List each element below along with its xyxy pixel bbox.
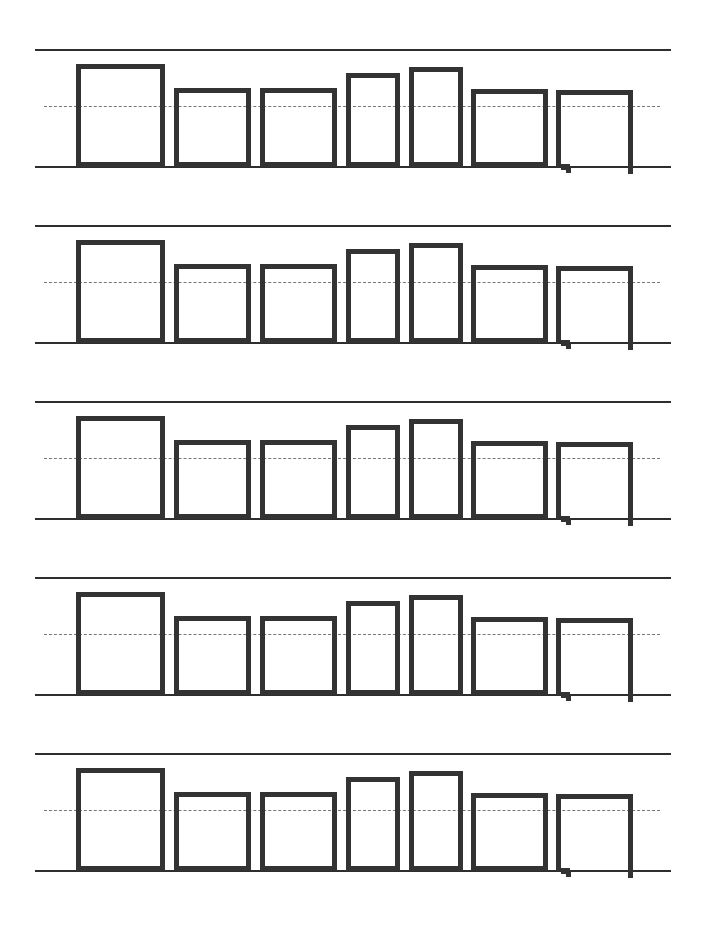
letter-box-6 xyxy=(471,441,548,519)
practice-row xyxy=(0,577,704,753)
letter-box-5 xyxy=(409,595,463,695)
letter-box-6 xyxy=(471,89,548,167)
top-guide-line xyxy=(35,225,671,227)
letter-box-1 xyxy=(76,416,165,519)
letter-box-5 xyxy=(409,67,463,167)
descender-stem-left xyxy=(566,696,571,701)
descender-stem-left xyxy=(566,168,571,173)
letter-box-4 xyxy=(346,777,400,871)
descender-stem-left xyxy=(566,520,571,525)
letter-box-5 xyxy=(409,771,463,871)
letter-box-4 xyxy=(346,73,400,167)
letter-box-3 xyxy=(260,264,337,343)
letter-box-6 xyxy=(471,793,548,871)
descender-stem-right xyxy=(628,871,633,878)
descender-stem-right xyxy=(628,167,633,174)
practice-row xyxy=(0,49,704,225)
letter-box-2 xyxy=(174,88,251,167)
letter-box-2 xyxy=(174,792,251,871)
practice-row xyxy=(0,225,704,401)
letter-box-7 xyxy=(556,266,633,343)
descender-stem-right xyxy=(628,519,633,526)
descender-stem-left xyxy=(566,872,571,877)
letter-box-1 xyxy=(76,768,165,871)
letter-box-3 xyxy=(260,616,337,695)
top-guide-line xyxy=(35,577,671,579)
descender-stem-right xyxy=(628,695,633,702)
letter-box-2 xyxy=(174,264,251,343)
letter-box-3 xyxy=(260,440,337,519)
letter-box-4 xyxy=(346,249,400,343)
letter-box-6 xyxy=(471,617,548,695)
top-guide-line xyxy=(35,49,671,51)
letter-box-4 xyxy=(346,425,400,519)
letter-box-3 xyxy=(260,88,337,167)
practice-row xyxy=(0,401,704,577)
letter-box-7 xyxy=(556,90,633,167)
letter-box-5 xyxy=(409,419,463,519)
letter-box-7 xyxy=(556,442,633,519)
top-guide-line xyxy=(35,753,671,755)
letter-box-7 xyxy=(556,794,633,871)
letter-box-2 xyxy=(174,616,251,695)
letter-box-3 xyxy=(260,792,337,871)
letter-box-2 xyxy=(174,440,251,519)
letter-box-4 xyxy=(346,601,400,695)
letter-box-5 xyxy=(409,243,463,343)
letter-box-1 xyxy=(76,592,165,695)
letter-box-7 xyxy=(556,618,633,695)
letter-box-1 xyxy=(76,240,165,343)
practice-row xyxy=(0,753,704,925)
letter-box-1 xyxy=(76,64,165,167)
descender-stem-left xyxy=(566,344,571,349)
top-guide-line xyxy=(35,401,671,403)
descender-stem-right xyxy=(628,343,633,350)
letter-box-6 xyxy=(471,265,548,343)
